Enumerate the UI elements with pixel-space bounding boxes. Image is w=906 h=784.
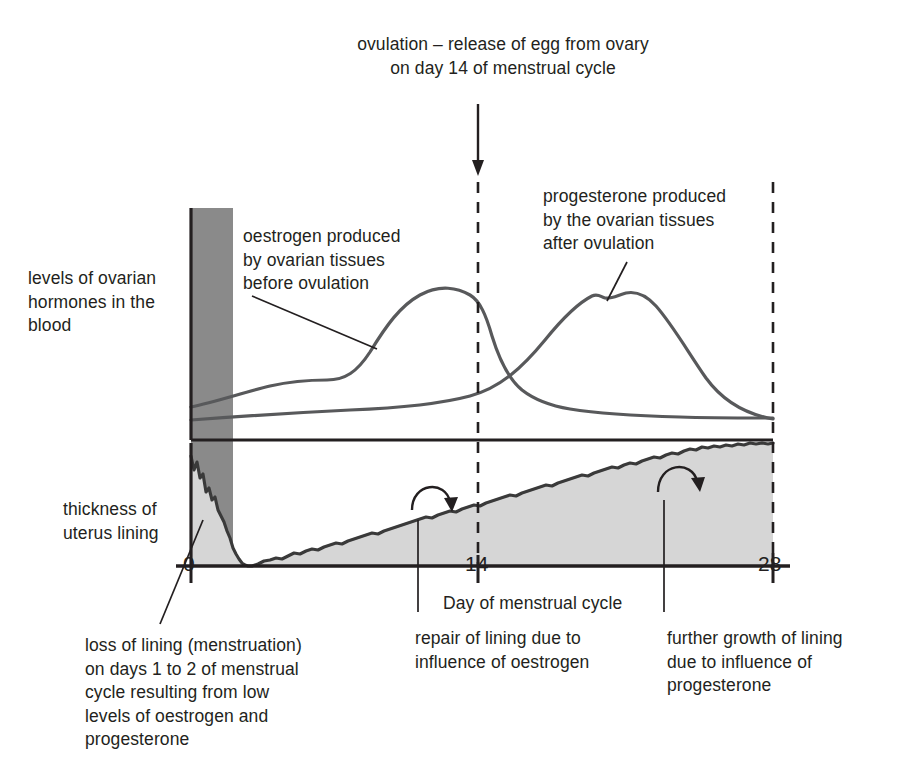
diagram-canvas: ovulation – release of egg from ovary on… (0, 0, 906, 784)
loss-leader-line (160, 520, 203, 624)
repair-curved-arrow (412, 487, 450, 510)
annotation-progesterone: progesterone produced by the ovarian tis… (543, 185, 726, 256)
axis-label-uterus-thickness: thickness of uterus lining (63, 498, 159, 545)
x-tick-label-14: 14 (465, 553, 488, 574)
annotation-oestrogen: oestrogen produced by ovarian tissues be… (243, 225, 400, 296)
x-tick-label-0: 0 (183, 553, 195, 574)
repair-arrow-head (444, 497, 458, 512)
annotation-repair-of-lining: repair of lining due to influence of oes… (415, 627, 589, 674)
annotation-further-growth: further growth of lining due to influenc… (667, 627, 843, 698)
oestrogen-leader-line (252, 296, 377, 349)
x-tick-label-28: 28 (758, 553, 781, 574)
axis-label-hormone-levels: levels of ovarian hormones in the blood (28, 267, 156, 338)
annotation-ovulation: ovulation – release of egg from ovary on… (338, 33, 668, 80)
axis-title-day-of-cycle: Day of menstrual cycle (443, 592, 622, 616)
ovulation-arrow-head (472, 160, 484, 176)
annotation-loss-of-lining: loss of lining (menstruation) on days 1 … (85, 634, 302, 752)
